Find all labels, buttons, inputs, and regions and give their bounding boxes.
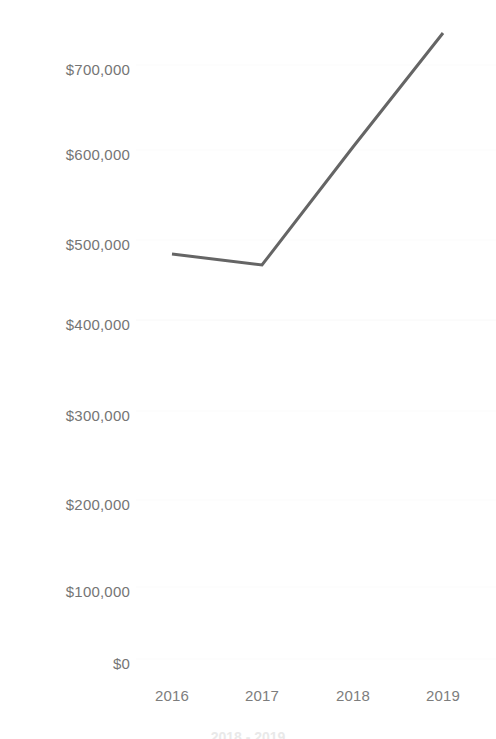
chart-page: $700,000 $600,000 $500,000 $400,000 $300… [0, 0, 496, 739]
gridlines [136, 65, 496, 659]
x-axis-tick-label-2018: 2018 [323, 688, 383, 703]
y-axis-tick-label-400000: $400,000 [0, 317, 130, 332]
y-axis-tick-label-600000: $600,000 [0, 147, 130, 162]
x-axis-tick-label-2017: 2017 [232, 688, 292, 703]
cropped-footer-text: 2018 - 2019 [0, 730, 496, 739]
y-axis-tick-label-500000: $500,000 [0, 237, 130, 252]
x-axis-tick-label-2019: 2019 [413, 688, 473, 703]
y-axis-tick-label-100000: $100,000 [0, 584, 130, 599]
y-axis-tick-label-0: $0 [0, 656, 130, 671]
x-axis-tick-label-2016: 2016 [142, 688, 202, 703]
line-chart-plot [0, 0, 496, 739]
y-axis-tick-label-300000: $300,000 [0, 408, 130, 423]
y-axis-tick-label-700000: $700,000 [0, 62, 130, 77]
data-series-line [172, 33, 443, 265]
y-axis-tick-label-200000: $200,000 [0, 497, 130, 512]
